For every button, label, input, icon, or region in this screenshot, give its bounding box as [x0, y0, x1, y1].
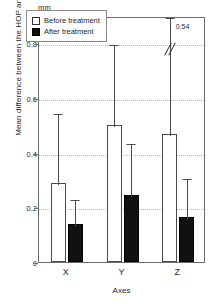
plot-area: 0.54 [38, 17, 205, 263]
x-axis-title: Axes [38, 286, 205, 295]
legend-swatch-after-icon [32, 28, 40, 36]
error-bar-x-after [75, 200, 76, 226]
axis-break-icon [164, 43, 175, 55]
legend-label-after: After treatment [44, 27, 94, 37]
y-tick-mark [34, 99, 38, 100]
error-bar-z-before [170, 18, 171, 136]
gridline [39, 45, 204, 46]
chart-legend: Before treatment After treatment [26, 10, 107, 42]
y-tick-mark [34, 208, 38, 209]
error-bar-z-after [187, 179, 188, 219]
x-tick-label-z: Z [174, 267, 180, 277]
error-cap [71, 200, 80, 201]
error-cap [110, 45, 119, 46]
x-tick-label-y: Y [118, 267, 124, 277]
error-cap [127, 144, 136, 145]
error-cap [54, 114, 63, 115]
plot-inner: 0.54 [39, 18, 204, 262]
bar-y-after [124, 195, 139, 262]
y-tick-mark [34, 44, 38, 45]
y-axis-title: Mean difference between the HOP and BPOP [14, 0, 23, 153]
error-bar-x-before [58, 114, 59, 185]
bar-z-before [162, 134, 177, 262]
legend-swatch-before-icon [32, 17, 40, 25]
legend-item-after: After treatment [32, 26, 100, 37]
error-cap [182, 179, 191, 180]
y-tick-mark [34, 154, 38, 155]
bar-z-after [179, 217, 194, 262]
bar-chart-figure: mm Mean difference between the HOP and B… [0, 0, 219, 304]
break-value-label: 0.54 [176, 23, 190, 30]
error-bar-y-after [131, 144, 132, 197]
y-tick-mark [34, 263, 38, 264]
error-cap [165, 18, 174, 19]
gridline [39, 100, 204, 101]
bar-x-before [51, 183, 66, 262]
x-tick-label-x: X [63, 267, 69, 277]
legend-label-before: Before treatment [44, 16, 100, 26]
gridline [39, 155, 204, 156]
bar-y-before [107, 125, 122, 262]
error-bar-y-before [114, 45, 115, 127]
bar-x-after [68, 224, 83, 262]
legend-item-before: Before treatment [32, 15, 100, 26]
